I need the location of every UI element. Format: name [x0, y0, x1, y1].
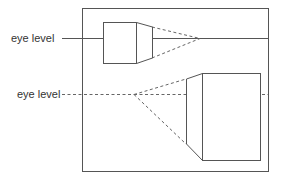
top-eye-level-label: eye level: [11, 33, 54, 44]
top-box-front-face: [104, 23, 137, 64]
top-convergence-line-upper: [152, 27, 200, 39]
bottom-convergence-line-upper: [134, 79, 186, 95]
top-convergence-line-lower: [152, 39, 200, 59]
bottom-box-side-face: [187, 74, 203, 161]
bottom-convergence-line-lower: [134, 95, 186, 145]
top-box-side-face: [137, 23, 153, 64]
bottom-box-front-face: [203, 74, 261, 161]
bottom-eye-level-label: eye level: [17, 89, 60, 100]
